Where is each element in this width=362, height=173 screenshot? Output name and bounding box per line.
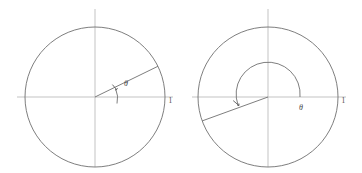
- left-angle-arc: [116, 89, 118, 104]
- left-panel: θ 1: [17, 9, 173, 167]
- unit-circle-figure: θ 1 θ 1: [0, 0, 362, 173]
- right-panel: θ 1: [192, 9, 346, 167]
- right-theta-label: θ: [299, 103, 303, 112]
- right-unit-label: 1: [342, 96, 346, 105]
- right-arc-arrowhead: [233, 101, 239, 106]
- left-arc-arrowhead: [112, 85, 117, 90]
- left-theta-label: θ: [124, 79, 128, 88]
- left-unit-label: 1: [169, 96, 173, 105]
- figure-root: θ 1 θ 1: [0, 0, 362, 173]
- right-radius-line: [202, 97, 268, 121]
